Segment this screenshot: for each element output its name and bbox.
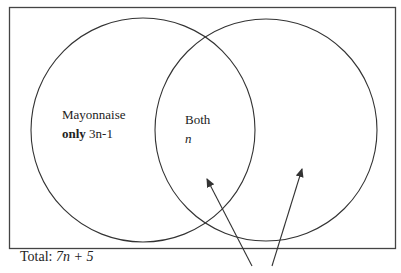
only-keyword: only: [62, 126, 86, 141]
mayonnaise-only-label: Mayonnaise only 3n-1: [62, 105, 126, 143]
both-title: Both: [185, 110, 210, 129]
both-value: n: [185, 129, 210, 148]
total-expression: 7n + 5: [56, 249, 93, 264]
total-label: Total: 7n + 5: [20, 249, 93, 265]
both-label: Both n: [185, 110, 210, 148]
arrow-to-intersection: [207, 179, 252, 266]
mayonnaise-title: Mayonnaise: [62, 105, 126, 124]
total-prefix: Total:: [20, 249, 56, 264]
arrow-to-right-only: [272, 169, 302, 266]
mayonnaise-only-value: 3n-1: [89, 126, 113, 141]
mayonnaise-only-value-line: only 3n-1: [62, 124, 126, 143]
